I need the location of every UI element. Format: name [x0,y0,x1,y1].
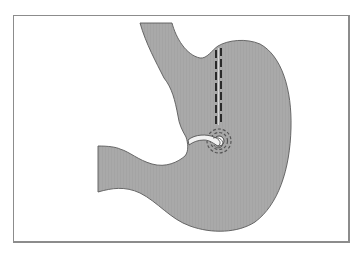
stomach-diagram [0,0,362,254]
stomach-body [98,23,291,231]
